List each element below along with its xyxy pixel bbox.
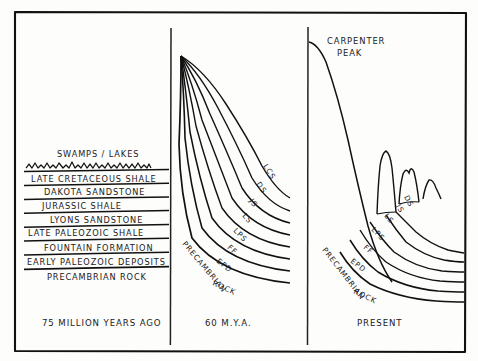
carpenter-peak-label-line1: CARPENTER	[327, 36, 385, 46]
carpenter-peak-label-line2: PEAK	[337, 48, 362, 58]
panel-divider-left	[170, 28, 171, 345]
layer-boundary-7	[24, 252, 169, 255]
strata-label-lps: LPS	[232, 226, 250, 244]
strata-label-epd: EPD	[215, 256, 234, 274]
present-strata-ds	[396, 212, 464, 253]
figure-canvas: SWAMPS / LAKES LATE CRETACEOUS SHALE DAK…	[0, 0, 478, 361]
hogback-ridge-1	[377, 151, 396, 214]
strata-line-js	[181, 56, 290, 223]
cross-section-drawing: SWAMPS / LAKES LATE CRETACEOUS SHALE DAK…	[0, 0, 478, 361]
swamps-lakes-label: SWAMPS / LAKES	[57, 149, 139, 159]
caption-60mya: 60 M.Y.A.	[205, 318, 252, 328]
layer-label-lyons-sandstone: LYONS SANDSTONE	[50, 215, 143, 225]
caption-present: PRESENT	[357, 318, 402, 328]
layer-boundary-8	[24, 267, 169, 270]
hogback-ridge-3	[423, 180, 441, 199]
strata-label-lcs: LCS	[261, 162, 277, 181]
layer-label-late-cretaceous-shale: LATE CRETACEOUS SHALE	[31, 174, 157, 184]
present-strata-ls	[370, 222, 464, 272]
present-label-ls: LS	[382, 212, 395, 226]
layer-boundary-4	[24, 211, 169, 214]
layer-boundary-6	[24, 238, 169, 241]
layer-label-fountain-formation: FOUNTAIN FORMATION	[44, 243, 153, 253]
present-strata-lps	[360, 230, 464, 282]
layer-boundary-1	[24, 169, 169, 171]
strata-label-ff: FF	[226, 243, 240, 257]
layer-label-precambrian-rock: PRECAMBRIAN ROCK	[47, 272, 147, 282]
layer-label-early-paleozoic-deposits: EARLY PALEOZOIC DEPOSITS	[27, 257, 166, 267]
panel-present: CARPENTER PEAK DS JS LS LPS FF EPD PRECA…	[309, 36, 464, 328]
strata-label-ds: DS	[254, 180, 268, 195]
panel-60mya: LCS DS JS LS LPS FF EPD PRECAMBRIAN ROCK…	[179, 56, 290, 328]
strata-label-ls: LS	[240, 212, 254, 226]
caption-75mya: 75 MILLION YEARS AGO	[42, 318, 162, 328]
layer-boundary-2	[24, 183, 169, 185]
swamp-surface-line	[26, 162, 151, 168]
layer-boundary-3	[24, 197, 169, 200]
layer-boundary-5	[24, 224, 169, 227]
layer-label-dakota-sandstone: DAKOTA SANDSTONE	[44, 187, 145, 197]
panel-75mya: SWAMPS / LAKES LATE CRETACEOUS SHALE DAK…	[24, 149, 169, 328]
basement-label-60mya-line2: ROCK	[211, 279, 237, 297]
panel-divider-right	[308, 27, 309, 345]
layer-label-jurassic-shale: JURASSIC SHALE	[41, 201, 122, 211]
basement-label-present-line2: ROCK	[352, 287, 378, 306]
layer-label-late-paleozoic-shale: LATE PALEOZOIC SHALE	[28, 228, 144, 238]
carpenter-peak-slope	[309, 42, 392, 282]
